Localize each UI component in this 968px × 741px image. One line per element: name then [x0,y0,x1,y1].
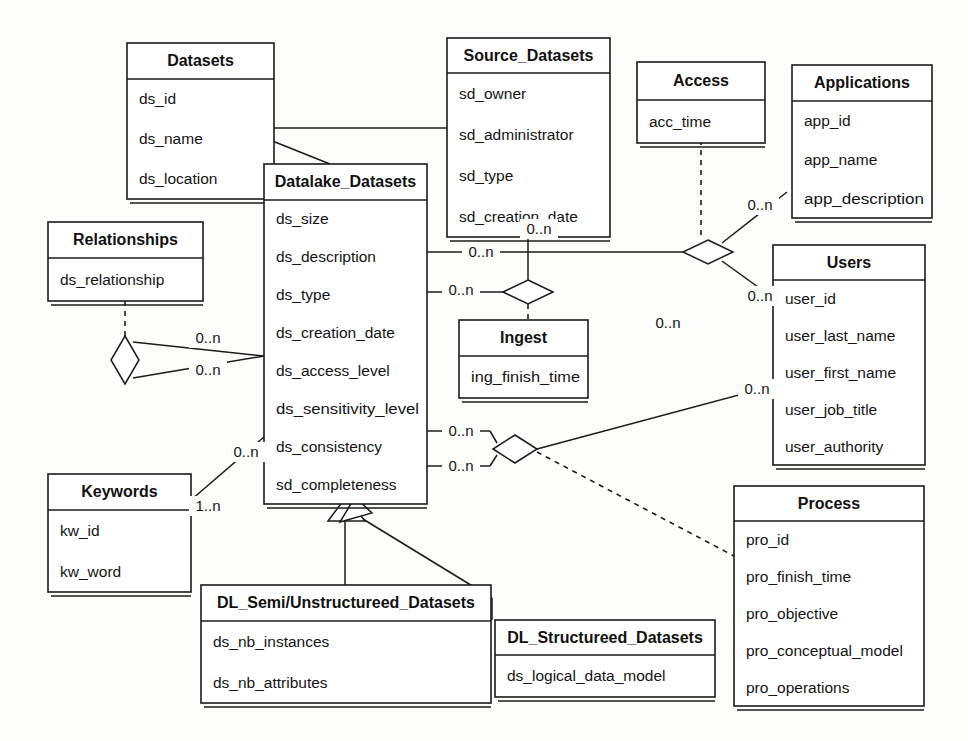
class-box-frame [773,245,925,465]
class-attribute: ds_location [139,170,217,187]
class-box-relationships[interactable]: Relationshipsds_relationship [48,222,203,305]
class-box-datalake_datasets[interactable]: Datalake_Datasetsds_sizeds_descriptionds… [264,164,427,508]
class-name-datasets: Datasets [167,52,234,69]
multiplicity-label-m-sd-ingest: 0..n [526,220,551,237]
class-box-frame [734,486,924,706]
class-box-applications[interactable]: Applicationsapp_idapp_nameapp_descriptio… [792,65,932,222]
class-attribute: ds_id [139,90,176,107]
class-attribute: ds_type [276,286,330,303]
class-name-source_datasets: Source_Datasets [464,47,594,64]
class-attribute: ds_sensitivity_level [276,400,419,417]
class-name-users: Users [827,254,872,271]
class-name-process: Process [798,495,860,512]
class-name-ingest: Ingest [500,329,548,346]
class-attribute: ds_name [139,130,203,147]
assoc-datalake-to-process-diamond-upper-drop [490,431,497,443]
class-attribute: sd_administrator [459,126,574,143]
class-attribute: user_id [785,290,836,307]
class-attribute: app_id [804,112,851,129]
class-attribute: ds_description [276,248,376,265]
class-box-ingest[interactable]: Ingesting_finish_time [459,320,588,402]
class-attribute: user_authority [785,438,883,455]
multiplicity-label-m-rel-b: 0..n [195,361,220,378]
class-name-keywords: Keywords [81,483,158,500]
class-box-process[interactable]: Processpro_idpro_finish_timepro_objectiv… [734,486,924,710]
multiplicity-label-m-rel-a: 0..n [195,329,220,346]
class-box-layer: Datasetsds_idds_nameds_locationSource_Da… [48,38,932,710]
class-attribute: ds_creation_date [276,324,395,341]
association-diamond-access [683,240,733,264]
class-attribute: user_first_name [785,364,896,381]
multiplicity-label-m-kw: 1..n [195,497,220,514]
uml-diagram-canvas: Datasetsds_idds_nameds_locationSource_Da… [0,0,968,741]
uml-diagram-svg: Datasetsds_idds_nameds_locationSource_Da… [0,0,968,741]
class-attribute: ds_logical_data_model [507,667,666,684]
class-box-datasets[interactable]: Datasetsds_idds_nameds_location [127,43,274,203]
class-box-dl_semi_unstructureed_datasets[interactable]: DL_Semi/Unstructureed_Datasetsds_nb_inst… [201,585,491,707]
class-attribute: pro_operations [746,679,850,696]
multiplicity-label-m-dld-ingest: 0..n [448,281,473,298]
class-attribute: ds_nb_attributes [213,674,328,691]
class-attribute: pro_conceptual_model [746,642,903,659]
class-attribute: ds_consistency [276,438,382,455]
class-name-dl_structureed_datasets: DL_Structureed_Datasets [507,629,703,646]
class-attribute: ds_relationship [60,271,164,288]
class-name-relationships: Relationships [73,231,178,248]
class-box-users[interactable]: Usersuser_iduser_last_nameuser_first_nam… [773,245,925,469]
dashed-link-process [537,452,734,556]
multiplicity-label-m-users-top: 0..n [747,287,772,304]
class-box-dl_structureed_datasets[interactable]: DL_Structureed_Datasetsds_logical_data_m… [495,620,715,701]
class-attribute: ds_nb_instances [213,633,330,650]
class-attribute: kw_id [60,522,100,539]
multiplicity-label-m-users-low: 0..n [744,380,769,397]
class-name-applications: Applications [814,74,910,91]
class-box-keywords[interactable]: Keywordskw_idkw_word [48,474,191,596]
multiplicity-label-m-users-mid: 0..n [655,314,680,331]
multiplicity-label-m-dld-proc-a: 0..n [448,422,473,439]
class-attribute: ds_size [276,210,329,227]
class-box-access[interactable]: Accessacc_time [637,62,765,147]
class-name-dl_semi_unstructureed_datasets: DL_Semi/Unstructureed_Datasets [217,594,475,611]
association-diamond-ingest [503,280,553,304]
class-attribute: pro_objective [746,605,838,622]
class-attribute: pro_finish_time [746,568,851,585]
multiplicity-label-m-apps: 0..n [747,196,772,213]
association-diamond-relationships [111,336,139,384]
class-attribute: ds_access_level [276,362,390,379]
class-attribute: app_name [804,151,877,168]
multiplicity-label-m-dld-access: 0..n [468,243,493,260]
class-box-source_datasets[interactable]: Source_Datasetssd_ownersd_administrators… [447,38,610,241]
association-diamond-process [493,435,537,463]
class-name-datalake_datasets: Datalake_Datasets [275,173,417,190]
multiplicity-label-m-dld-proc-b: 0..n [448,457,473,474]
class-attribute: sd_owner [459,85,526,102]
class-attribute: pro_id [746,531,789,548]
class-attribute: user_last_name [785,327,895,344]
class-attribute: acc_time [649,113,711,130]
class-attribute: ing_finish_time [471,368,580,385]
class-attribute: app_description [804,190,924,207]
class-attribute: kw_word [60,563,121,580]
class-attribute: sd_creation_date [459,208,578,225]
assoc-datalake-to-process-diamond-lower-rise [490,455,497,466]
class-attribute: sd_type [459,167,513,184]
class-attribute: sd_completeness [276,476,397,493]
class-name-access: Access [673,72,729,89]
multiplicity-label-m-kw-dld: 0..n [233,443,258,460]
class-attribute: user_job_title [785,401,877,418]
